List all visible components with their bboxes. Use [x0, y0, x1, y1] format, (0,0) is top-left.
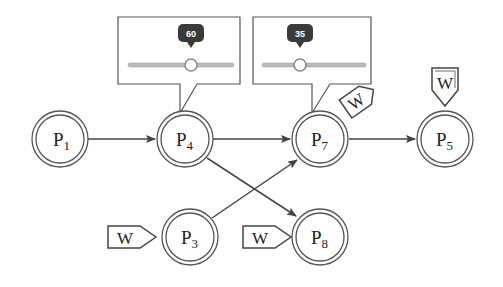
w-badge-p3[interactable]: W [108, 226, 156, 248]
w-badge-p7[interactable]: W [339, 81, 379, 119]
slider-handle-p7[interactable] [294, 59, 306, 71]
svg-text:W: W [437, 74, 454, 93]
edge-p4-p8[interactable] [207, 158, 296, 216]
slider-value-p7: 35 [295, 29, 305, 39]
slider-handle-p4[interactable] [185, 59, 197, 71]
slider-track-p7[interactable] [262, 63, 366, 67]
w-badge-p5[interactable]: W [432, 68, 458, 106]
node-p3[interactable]: P3 [162, 209, 218, 265]
slider-value-p4: 60 [186, 29, 196, 39]
slider-track-p4[interactable] [128, 63, 234, 67]
node-p5[interactable]: P5 [417, 111, 473, 167]
svg-text:W: W [252, 229, 269, 248]
node-p8[interactable]: P8 [292, 209, 348, 265]
node-p7[interactable]: P7 [292, 111, 348, 167]
node-p1[interactable]: P1 [32, 111, 88, 167]
svg-text:W: W [117, 229, 134, 248]
node-p4[interactable]: P4 [157, 111, 213, 167]
edges [88, 139, 415, 218]
w-badge-p8[interactable]: W [243, 226, 291, 248]
process-diagram: 60 35 P1 P4 P7 P5 P3 [0, 0, 503, 287]
slider-callout-p4: 60 [118, 17, 240, 113]
